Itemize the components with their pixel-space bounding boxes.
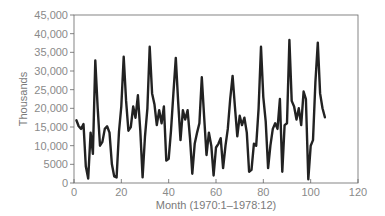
y-tick-label: 0	[62, 177, 68, 189]
y-axis-label: Thousands	[17, 71, 29, 126]
y-tick-label: 40,000	[34, 28, 68, 40]
x-tick-label: 40	[163, 186, 175, 198]
y-tick-label: 25,000	[34, 84, 68, 96]
x-tick-label: 60	[210, 186, 222, 198]
y-tick-label: 30,000	[34, 65, 68, 77]
x-tick-label: 0	[71, 186, 77, 198]
y-tick-label: 15,000	[34, 121, 68, 133]
x-axis-label: Month (1970:1–1978:12)	[156, 199, 276, 211]
y-tick-label: 20,000	[34, 102, 68, 114]
y-axis: 0500010,00015,00020,00025,00030,00035,00…	[34, 9, 74, 189]
x-tick-label: 100	[301, 186, 319, 198]
y-tick-label: 10,000	[34, 140, 68, 152]
y-tick-label: 5000	[44, 158, 68, 170]
x-tick-label: 120	[349, 186, 367, 198]
x-tick-label: 80	[257, 186, 269, 198]
y-tick-label: 45,000	[34, 9, 68, 21]
y-tick-label: 35,000	[34, 46, 68, 58]
line-chart: 0500010,00015,00020,00025,00030,00035,00…	[0, 0, 385, 216]
x-tick-label: 20	[115, 186, 127, 198]
